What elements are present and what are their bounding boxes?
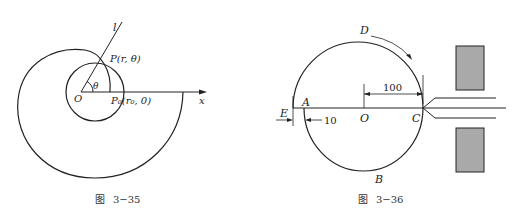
label-O: O: [360, 112, 369, 125]
label-C: C: [412, 112, 421, 125]
rotation-arrow: [371, 36, 410, 57]
label-axis-x: x: [199, 95, 205, 106]
caption-prefix: 图: [95, 194, 105, 205]
label-B: B: [374, 173, 383, 186]
label-point-P0: P₀(r₀, 0): [110, 95, 151, 106]
dim-10-label: 10: [324, 115, 337, 126]
dim-10-arrow: [305, 118, 311, 122]
label-A: A: [301, 96, 310, 109]
figure-3-36: D A O C B E 100 10 图 3−36: [260, 0, 517, 212]
spiral-diagram: l P(r, θ) θ O P₀(r₀, 0) x 图 3−35: [0, 0, 260, 212]
spiral-curve: [18, 49, 183, 178]
label-l: l: [113, 21, 117, 34]
label-E: E: [279, 107, 288, 120]
circle-die-diagram: D A O C B E 100 10 图 3−36: [260, 0, 517, 212]
caption-number: 3−35: [113, 194, 140, 205]
caption-prefix: 图: [358, 194, 368, 205]
die-block-lower: [456, 128, 484, 172]
upper-arc: [293, 42, 423, 108]
label-theta: θ: [93, 81, 99, 91]
label-D: D: [359, 24, 369, 37]
die-block-upper: [456, 46, 484, 90]
caption-number: 3−36: [376, 194, 403, 205]
label-origin-O: O: [74, 93, 82, 104]
x-axis-arrow: [199, 90, 207, 95]
label-point-P: P(r, θ): [109, 53, 141, 64]
figure-3-35: l P(r, θ) θ O P₀(r₀, 0) x 图 3−35: [0, 0, 260, 212]
dim-100-label: 100: [383, 82, 402, 93]
